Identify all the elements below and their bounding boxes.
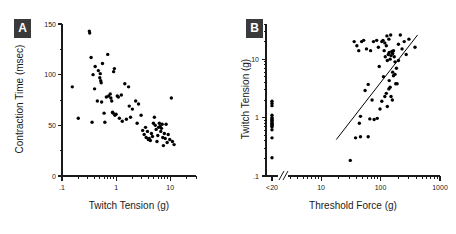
svg-text:1: 1 [255, 114, 259, 121]
svg-text:10: 10 [251, 56, 259, 63]
x-axis-title-b: Threshold Force (g) [266, 200, 440, 211]
svg-text:10: 10 [317, 184, 325, 191]
svg-text:<20: <20 [266, 184, 278, 191]
scatter-plot-b: .1110101001000<20 [228, 0, 456, 234]
svg-text:10: 10 [166, 184, 174, 191]
x-axis-title-a: Twitch Tension (g) [62, 200, 196, 211]
scatter-plot-a: 050100150.1110 [0, 0, 228, 234]
panel-a: A 050100150.1110 Twitch Tension (g) Cont… [0, 0, 228, 234]
svg-text:100: 100 [44, 71, 56, 78]
svg-text:1000: 1000 [432, 184, 448, 191]
figure-container: A 050100150.1110 Twitch Tension (g) Cont… [0, 0, 456, 234]
y-axis-title-a: Contraction Time (msec) [14, 18, 25, 180]
svg-text:0: 0 [52, 173, 56, 180]
svg-text:100: 100 [375, 184, 387, 191]
svg-text:50: 50 [48, 122, 56, 129]
svg-text:1: 1 [114, 184, 118, 191]
svg-text:150: 150 [44, 21, 56, 28]
svg-text:.1: .1 [253, 173, 259, 180]
panel-b: B .1110101001000<20 Threshold Force (g) … [228, 0, 456, 234]
y-axis-title-b: Twitch Tension (g) [240, 18, 251, 180]
svg-text:.1: .1 [59, 184, 65, 191]
